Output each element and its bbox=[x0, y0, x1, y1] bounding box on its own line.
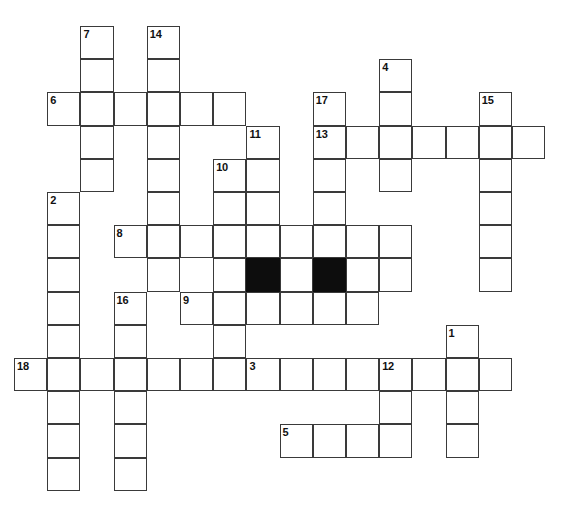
grid-cell[interactable] bbox=[280, 225, 313, 258]
grid-cell[interactable] bbox=[47, 325, 80, 358]
grid-cell[interactable] bbox=[446, 391, 479, 424]
grid-cell[interactable] bbox=[147, 225, 180, 258]
crossword-puzzle: 714461715131110281691183125 bbox=[0, 0, 573, 510]
grid-cell[interactable] bbox=[313, 192, 346, 225]
grid-cell[interactable] bbox=[246, 159, 279, 192]
grid-cell[interactable] bbox=[313, 358, 346, 391]
grid-cell[interactable] bbox=[280, 292, 313, 325]
grid-cell[interactable] bbox=[379, 358, 412, 391]
grid-cell[interactable] bbox=[346, 258, 379, 291]
grid-cell[interactable] bbox=[479, 258, 512, 291]
grid-cell[interactable] bbox=[180, 92, 213, 125]
grid-cell[interactable] bbox=[114, 424, 147, 457]
grid-cell[interactable] bbox=[213, 92, 246, 125]
grid-cell[interactable] bbox=[114, 458, 147, 491]
grid-cell[interactable] bbox=[213, 292, 246, 325]
grid-cell[interactable] bbox=[114, 92, 147, 125]
grid-cell[interactable] bbox=[114, 325, 147, 358]
grid-cell[interactable] bbox=[412, 358, 445, 391]
grid-cell[interactable] bbox=[479, 192, 512, 225]
grid-cell[interactable] bbox=[446, 325, 479, 358]
grid-cell[interactable] bbox=[47, 292, 80, 325]
grid-cell-blocked bbox=[246, 258, 279, 291]
grid-cell[interactable] bbox=[379, 159, 412, 192]
grid-cell[interactable] bbox=[180, 292, 213, 325]
grid-cell[interactable] bbox=[313, 126, 346, 159]
grid-cell[interactable] bbox=[313, 225, 346, 258]
grid-cell[interactable] bbox=[14, 358, 47, 391]
grid-cell[interactable] bbox=[80, 159, 113, 192]
grid-cell[interactable] bbox=[313, 159, 346, 192]
grid-cell[interactable] bbox=[379, 126, 412, 159]
grid-cell[interactable] bbox=[114, 292, 147, 325]
grid-cell[interactable] bbox=[479, 92, 512, 125]
grid-cell[interactable] bbox=[313, 92, 346, 125]
grid-cell[interactable] bbox=[80, 59, 113, 92]
grid-cell[interactable] bbox=[147, 258, 180, 291]
grid-cell[interactable] bbox=[47, 424, 80, 457]
grid-cell[interactable] bbox=[80, 358, 113, 391]
grid-cell[interactable] bbox=[147, 192, 180, 225]
grid-cell[interactable] bbox=[147, 26, 180, 59]
grid-cell[interactable] bbox=[47, 225, 80, 258]
grid-cell[interactable] bbox=[114, 225, 147, 258]
grid-cell[interactable] bbox=[147, 159, 180, 192]
grid-cell[interactable] bbox=[446, 424, 479, 457]
grid-cell[interactable] bbox=[479, 358, 512, 391]
grid-cell[interactable] bbox=[80, 26, 113, 59]
grid-cell[interactable] bbox=[280, 424, 313, 457]
grid-cell[interactable] bbox=[180, 358, 213, 391]
grid-cell[interactable] bbox=[446, 126, 479, 159]
grid-cell[interactable] bbox=[213, 225, 246, 258]
grid-cell[interactable] bbox=[147, 358, 180, 391]
grid-cell[interactable] bbox=[114, 358, 147, 391]
grid-cell[interactable] bbox=[47, 391, 80, 424]
grid-cell[interactable] bbox=[47, 358, 80, 391]
grid-cell[interactable] bbox=[446, 358, 479, 391]
grid-cell[interactable] bbox=[213, 325, 246, 358]
grid-cell[interactable] bbox=[147, 92, 180, 125]
grid-cell[interactable] bbox=[512, 126, 545, 159]
grid-cell[interactable] bbox=[379, 92, 412, 125]
grid-cell[interactable] bbox=[479, 225, 512, 258]
grid-cell[interactable] bbox=[213, 258, 246, 291]
grid-cell[interactable] bbox=[114, 391, 147, 424]
grid-cell[interactable] bbox=[213, 159, 246, 192]
grid-cell[interactable] bbox=[246, 126, 279, 159]
grid-cell[interactable] bbox=[346, 358, 379, 391]
grid-cell[interactable] bbox=[379, 225, 412, 258]
grid-cell[interactable] bbox=[280, 258, 313, 291]
grid-cell[interactable] bbox=[47, 92, 80, 125]
grid-cell[interactable] bbox=[80, 126, 113, 159]
grid-cell[interactable] bbox=[412, 126, 445, 159]
grid-cell[interactable] bbox=[313, 292, 346, 325]
grid-cell[interactable] bbox=[246, 292, 279, 325]
grid-cell[interactable] bbox=[80, 92, 113, 125]
grid-cell[interactable] bbox=[213, 358, 246, 391]
grid-cell[interactable] bbox=[47, 258, 80, 291]
grid-cell[interactable] bbox=[346, 126, 379, 159]
grid-cell[interactable] bbox=[379, 424, 412, 457]
grid-cell[interactable] bbox=[346, 225, 379, 258]
grid-cell[interactable] bbox=[147, 126, 180, 159]
grid-cell[interactable] bbox=[346, 292, 379, 325]
grid-cell[interactable] bbox=[246, 192, 279, 225]
grid-cell[interactable] bbox=[180, 225, 213, 258]
grid-cell-blocked bbox=[313, 258, 346, 291]
crossword-grid[interactable]: 714461715131110281691183125 bbox=[0, 0, 573, 510]
grid-cell[interactable] bbox=[379, 258, 412, 291]
grid-cell[interactable] bbox=[213, 192, 246, 225]
grid-cell[interactable] bbox=[346, 424, 379, 457]
grid-cell[interactable] bbox=[313, 424, 346, 457]
grid-cell[interactable] bbox=[379, 59, 412, 92]
grid-cell[interactable] bbox=[246, 358, 279, 391]
grid-cell[interactable] bbox=[280, 358, 313, 391]
grid-cell[interactable] bbox=[47, 192, 80, 225]
grid-cell[interactable] bbox=[479, 126, 512, 159]
grid-cell[interactable] bbox=[246, 225, 279, 258]
grid-cell[interactable] bbox=[47, 458, 80, 491]
grid-cell[interactable] bbox=[479, 159, 512, 192]
grid-cell[interactable] bbox=[147, 59, 180, 92]
grid-cell[interactable] bbox=[379, 391, 412, 424]
